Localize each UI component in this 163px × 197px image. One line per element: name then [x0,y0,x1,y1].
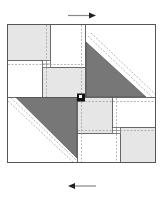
center-square [77,94,85,102]
top-right-triangle [86,25,156,98]
quilt-block-diagram [0,0,163,197]
top-left-quadrant [8,25,86,98]
arrow-right-icon [68,13,96,19]
bottom-right-quadrant [78,98,156,163]
bottom-left-triangle [8,98,78,163]
arrow-left-icon [68,183,96,189]
